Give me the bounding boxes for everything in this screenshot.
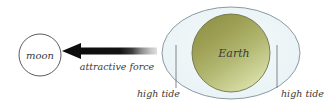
diagram-canvas: moon Earth attractive force high tide hi… [0,0,334,108]
moon-label: moon [26,50,54,61]
attractive-force-label: attractive force [80,61,155,72]
earth-label: Earth [217,47,249,60]
arrow-shaft [79,48,157,55]
high-tide-label-left: high tide [137,88,180,99]
high-tide-label-right: high tide [281,88,324,99]
tidal-forces-diagram: moon Earth attractive force high tide hi… [0,0,334,108]
arrow-head-icon [62,43,81,59]
attractive-force-arrow [62,43,157,59]
